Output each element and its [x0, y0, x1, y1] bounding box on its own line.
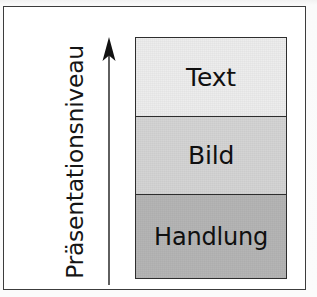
level-box-text: Text	[136, 38, 286, 116]
level-label-handlung: Handlung	[154, 225, 268, 249]
axis-label-praesentationsniveau: Präsentationsniveau	[64, 45, 88, 279]
level-label-text: Text	[186, 65, 236, 90]
level-box-handlung: Handlung	[136, 194, 286, 278]
level-label-bild: Bild	[188, 143, 234, 168]
figure-frame: Präsentationsniveau Text Bild Handlung	[3, 6, 306, 290]
level-stack: Text Bild Handlung	[135, 37, 287, 279]
level-box-bild: Bild	[136, 116, 286, 194]
arrow-up-icon	[96, 35, 122, 285]
figure-container: Präsentationsniveau Text Bild Handlung	[0, 0, 317, 297]
arrow-up-svg	[96, 35, 122, 285]
